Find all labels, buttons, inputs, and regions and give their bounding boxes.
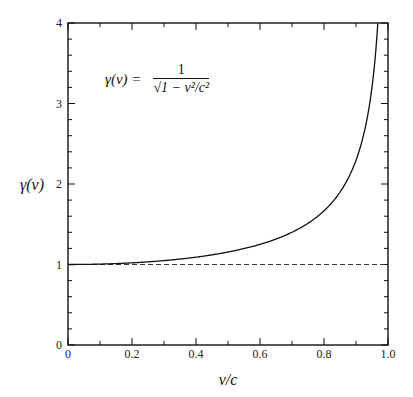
x-tick-label: 0.4 [189, 347, 204, 361]
y-tick-label: 3 [56, 97, 62, 111]
formula-annotation: γ(v) = 1 √1 − v²/c² [105, 62, 209, 96]
y-tick-label: 1 [56, 258, 62, 272]
y-tick-label: 0 [56, 338, 62, 352]
formula-fraction: 1 √1 − v²/c² [153, 62, 209, 96]
x-tick-label: 1.0 [381, 347, 396, 361]
formula-lhs: γ(v) = [105, 71, 141, 88]
gamma-curve [68, 23, 378, 264]
formula-denominator: √1 − v²/c² [153, 78, 209, 96]
x-tick-label: 0.6 [253, 347, 268, 361]
y-tick-label: 4 [56, 16, 62, 30]
x-tick-label: 0 [65, 347, 71, 361]
y-tick-label: 2 [56, 177, 62, 191]
y-axis-label: γ(v) [20, 176, 44, 194]
x-tick-label: 0.8 [317, 347, 332, 361]
x-axis-label: v/c [219, 371, 238, 388]
x-tick-label: 0.2 [125, 347, 140, 361]
formula-numerator: 1 [174, 62, 189, 78]
gamma-chart: 00.20.40.60.81.001234 v/c γ(v) [0, 0, 413, 397]
